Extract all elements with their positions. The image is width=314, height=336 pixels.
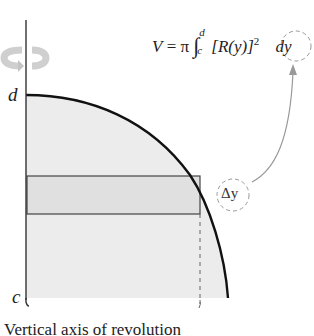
axis-bottom-hook [26, 298, 29, 306]
rotation-arrow-icon [4, 50, 46, 72]
representative-rectangle [27, 176, 200, 214]
integral-lower-limit: c [197, 44, 202, 56]
lower-limit-label-c: c [12, 286, 20, 308]
formula-equals: = [167, 37, 177, 56]
integral-upper-limit: d [199, 26, 205, 38]
volume-formula: V = π ∫dc[R(y)]2 dy [152, 32, 292, 58]
formula-integrand: [R(y)] [211, 37, 253, 56]
formula-lhs: V [152, 37, 162, 56]
formula-differential: dy [276, 37, 292, 56]
upper-limit-label-d: d [8, 84, 18, 106]
formula-pi: π [180, 37, 189, 56]
formula-exponent: 2 [254, 35, 260, 47]
figure-caption: Vertical axis of revolution [4, 320, 181, 336]
annotation-arrowhead-icon [289, 64, 297, 75]
delta-y-label: Δy [221, 185, 238, 202]
integral-limits: dc [199, 38, 211, 58]
annotation-arrow [252, 72, 293, 182]
diagram-canvas: d c Δy V = π ∫dc[R(y)]2 dy Vertical axis… [0, 0, 314, 336]
